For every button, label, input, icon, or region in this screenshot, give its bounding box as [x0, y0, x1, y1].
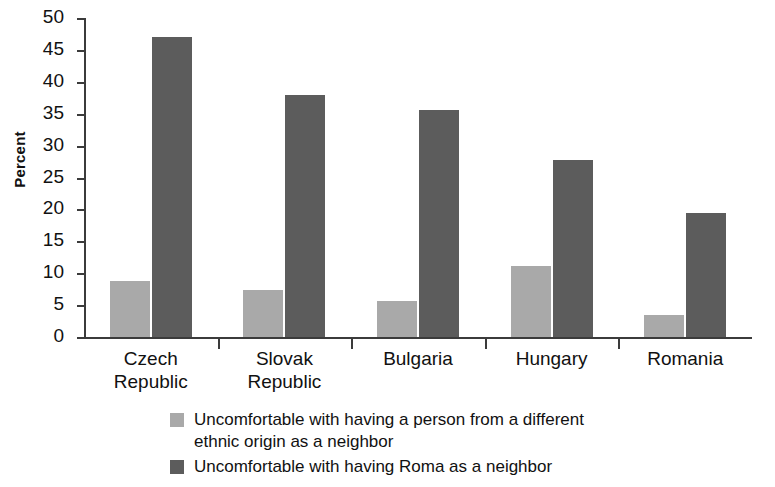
bar [644, 315, 684, 337]
bar [419, 110, 459, 337]
bar [511, 266, 551, 337]
y-axis-tick-label: 35 [20, 103, 64, 123]
legend-label-line-2: ethnic origin as a neighbor [194, 432, 393, 451]
y-axis-tick-label: 30 [20, 135, 64, 155]
y-axis-tick-label: 45 [20, 39, 64, 59]
y-axis-tick-label: 0 [20, 326, 64, 346]
bar [553, 160, 593, 337]
y-axis-tick-label: 25 [20, 167, 64, 187]
x-axis-category-label: Czech Republic [84, 347, 218, 393]
plot-area: 05101520253035404550 [84, 18, 752, 339]
x-axis-category-label: Hungary [485, 347, 619, 370]
y-axis-tick: 40 [77, 82, 86, 84]
y-axis-tick: 10 [77, 273, 86, 275]
bar [243, 290, 283, 337]
legend-label-roma: Uncomfortable with having Roma as a neig… [194, 456, 552, 478]
legend-swatch-dark-icon [170, 460, 184, 474]
y-axis-tick: 35 [77, 114, 86, 116]
y-axis-tick: 15 [77, 241, 86, 243]
y-axis-tick: 50 [77, 18, 86, 20]
x-axis-category-label: Bulgaria [351, 347, 485, 370]
y-axis-tick: 20 [77, 209, 86, 211]
bar [110, 281, 150, 337]
legend-label-ethnic-origin: Uncomfortable with having a person from … [194, 409, 584, 453]
y-axis-tick: 0 [77, 337, 86, 339]
legend-item: Uncomfortable with having Roma as a neig… [170, 456, 730, 478]
y-axis-tick-label: 40 [20, 71, 64, 91]
legend-label-line-1: Uncomfortable with having a person from … [194, 410, 584, 429]
y-axis-tick-label: 50 [20, 7, 64, 27]
y-axis-title: Percent [11, 115, 28, 205]
y-axis-tick-label: 15 [20, 230, 64, 250]
bar [686, 213, 726, 337]
chart-legend: Uncomfortable with having a person from … [170, 409, 730, 481]
y-axis-tick: 25 [77, 178, 86, 180]
bar [285, 95, 325, 337]
bar [152, 37, 192, 337]
y-axis-tick-label: 10 [20, 262, 64, 282]
x-axis-category-label: Romania [618, 347, 752, 370]
y-axis-tick-label: 20 [20, 198, 64, 218]
y-axis-tick-label: 5 [20, 294, 64, 314]
y-axis-tick: 30 [77, 146, 86, 148]
y-axis-tick: 5 [77, 305, 86, 307]
bar-chart-figure: Percent 05101520253035404550 Czech Repub… [0, 0, 775, 487]
bar [377, 301, 417, 337]
legend-item: Uncomfortable with having a person from … [170, 409, 730, 453]
y-axis-tick: 45 [77, 50, 86, 52]
x-axis-line [84, 337, 752, 339]
legend-swatch-light-icon [170, 413, 184, 427]
x-axis-category-label: Slovak Republic [218, 347, 352, 393]
